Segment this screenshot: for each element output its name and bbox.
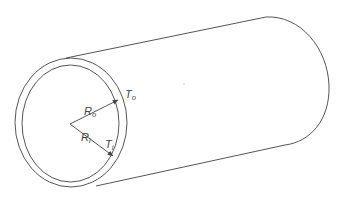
near-end-face (15, 58, 127, 187)
bottom-tangent-line (96, 145, 285, 186)
cylinder-diagram: Ro Ri To Ti (0, 0, 338, 197)
inner-thickness-label: Ti (105, 138, 114, 152)
outer-radius-label: Ro (84, 105, 96, 119)
far-end-cap (266, 17, 329, 145)
outer-circle (15, 58, 127, 187)
cylinder-body (66, 17, 329, 186)
speck (183, 83, 184, 84)
outer-thickness-label: To (125, 88, 136, 102)
inner-radius-label: Ri (81, 131, 91, 145)
top-tangent-line (66, 17, 266, 58)
